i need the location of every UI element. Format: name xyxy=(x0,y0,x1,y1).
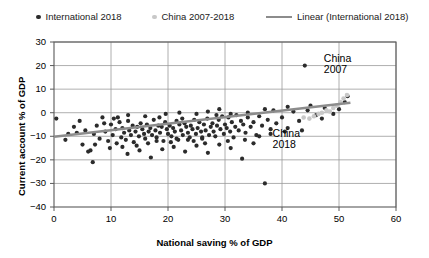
data-point xyxy=(202,122,206,126)
data-point xyxy=(129,133,133,137)
data-point xyxy=(169,134,173,138)
data-point xyxy=(260,124,264,128)
data-point xyxy=(183,150,187,154)
x-tick-label: 0 xyxy=(41,213,67,224)
data-point xyxy=(146,141,150,145)
data-point xyxy=(213,134,217,138)
scatter-chart: International 2018 China 2007-2018 Linea… xyxy=(0,0,429,258)
data-point xyxy=(203,141,207,145)
data-point xyxy=(186,131,190,135)
data-point xyxy=(266,118,270,122)
annotation-china-2007: China 2007 xyxy=(324,53,351,76)
data-point xyxy=(142,132,146,136)
data-point xyxy=(207,133,211,137)
data-point xyxy=(341,96,346,101)
data-point xyxy=(126,119,130,123)
y-tick-label: 20 xyxy=(20,60,46,71)
data-point xyxy=(200,135,204,139)
data-point xyxy=(108,146,112,150)
x-tick-label: 10 xyxy=(98,213,124,224)
data-point xyxy=(133,129,137,133)
data-point xyxy=(217,142,221,146)
data-point xyxy=(72,125,76,129)
data-point xyxy=(116,115,120,119)
data-point xyxy=(91,160,95,164)
data-point xyxy=(80,142,84,146)
annotation-china-2018: China 2018 xyxy=(273,128,300,151)
data-point xyxy=(194,112,198,116)
data-point xyxy=(228,129,232,133)
data-point xyxy=(212,129,216,133)
x-tick-label: 40 xyxy=(269,213,295,224)
data-point xyxy=(106,139,110,143)
data-point xyxy=(153,128,157,132)
data-point xyxy=(192,139,196,143)
data-point xyxy=(63,138,67,142)
data-point xyxy=(122,131,126,135)
y-axis-title: Current account % of GDP xyxy=(16,77,27,196)
data-point xyxy=(218,127,222,131)
data-point xyxy=(125,152,129,156)
data-point xyxy=(249,125,253,129)
data-point xyxy=(152,118,156,122)
data-point xyxy=(257,114,261,118)
data-point xyxy=(215,124,219,128)
x-tick-label: 30 xyxy=(212,213,238,224)
data-point xyxy=(320,110,325,115)
data-point xyxy=(169,140,173,144)
data-point xyxy=(286,105,290,109)
x-tick-label: 20 xyxy=(155,213,181,224)
data-point xyxy=(239,119,243,123)
data-point xyxy=(231,135,235,139)
data-point xyxy=(98,137,102,141)
data-point xyxy=(109,122,113,126)
data-point xyxy=(143,137,147,141)
data-point xyxy=(112,117,116,121)
data-point xyxy=(177,111,181,115)
data-point xyxy=(137,148,141,152)
data-point xyxy=(280,115,284,119)
data-point xyxy=(217,107,221,111)
data-point xyxy=(345,93,350,98)
data-point xyxy=(184,125,188,129)
data-point xyxy=(225,126,229,130)
data-point xyxy=(137,134,141,138)
data-point xyxy=(240,157,244,161)
data-point xyxy=(229,146,233,150)
data-point xyxy=(303,63,307,67)
data-point xyxy=(251,120,255,124)
data-point xyxy=(161,139,165,143)
data-point xyxy=(204,128,208,132)
data-point xyxy=(214,113,218,117)
annotation-china-2007-line2: 2007 xyxy=(324,64,351,76)
data-point xyxy=(274,121,278,125)
data-point xyxy=(226,139,230,143)
data-point xyxy=(230,120,234,124)
data-point xyxy=(139,121,143,125)
data-point xyxy=(263,107,267,111)
data-point xyxy=(210,121,214,125)
data-point xyxy=(186,138,190,142)
data-point xyxy=(173,129,177,133)
data-point xyxy=(54,117,58,121)
data-point xyxy=(166,132,170,136)
data-point xyxy=(174,137,178,141)
data-point xyxy=(102,121,106,125)
data-point xyxy=(88,148,92,152)
x-tick-label: 60 xyxy=(383,213,409,224)
data-point xyxy=(241,122,245,126)
data-point xyxy=(194,144,198,148)
data-point xyxy=(243,138,247,142)
data-point xyxy=(149,155,153,159)
data-point xyxy=(307,116,312,121)
annotation-china-2018-line2: 2018 xyxy=(273,139,300,151)
series-international xyxy=(54,63,349,185)
data-point xyxy=(132,140,136,144)
data-point xyxy=(222,132,226,136)
data-point xyxy=(165,127,169,131)
data-point xyxy=(199,129,203,133)
data-point xyxy=(100,115,104,119)
data-point xyxy=(194,132,198,136)
data-point xyxy=(172,145,176,149)
data-point xyxy=(300,128,304,132)
